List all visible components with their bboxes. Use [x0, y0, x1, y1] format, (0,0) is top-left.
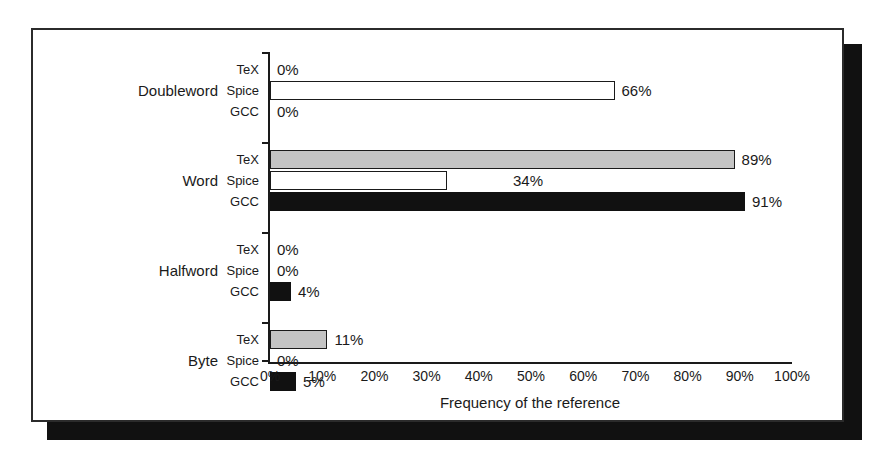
- series-label-spice: Spice: [226, 174, 259, 188]
- bar-word-tex: [270, 150, 735, 169]
- x-tick-label-60pct: 60%: [569, 368, 597, 384]
- bar-value-doubleword-gcc: 0%: [277, 102, 299, 121]
- y-axis-tick: [262, 142, 270, 144]
- y-axis-tick: [262, 322, 270, 324]
- category-label-byte: Byte: [48, 352, 218, 369]
- series-label-column: TeXSpiceGCCTeXSpiceGCCTeXSpiceGCCTeXSpic…: [208, 30, 263, 424]
- bar-value-halfword-tex: 0%: [277, 240, 299, 259]
- series-label-gcc: GCC: [230, 105, 259, 119]
- bar-value-byte-tex: 11%: [334, 330, 363, 349]
- x-tick-label-10pct: 10%: [308, 368, 336, 384]
- bar-value-doubleword-spice: 66%: [622, 81, 652, 100]
- x-tick-label-50pct: 50%: [517, 368, 545, 384]
- x-tick-label-0pct: 0%: [260, 368, 280, 384]
- category-label-word: Word: [48, 172, 218, 189]
- x-tick-label-80pct: 80%: [674, 368, 702, 384]
- series-label-gcc: GCC: [230, 375, 259, 389]
- series-label-tex: TeX: [237, 153, 259, 167]
- x-tick-label-70pct: 70%: [621, 368, 649, 384]
- bar-halfword-gcc: [270, 282, 291, 301]
- bar-value-halfword-spice: 0%: [277, 261, 299, 280]
- bar-word-spice: [270, 171, 447, 190]
- x-tick-label-40pct: 40%: [465, 368, 493, 384]
- bar-value-halfword-gcc: 4%: [298, 282, 320, 301]
- series-label-spice: Spice: [226, 84, 259, 98]
- bar-value-word-tex: 89%: [742, 150, 772, 169]
- bar-value-doubleword-tex: 0%: [277, 60, 299, 79]
- category-label-column: DoublewordWordHalfwordByte: [43, 30, 218, 424]
- x-axis-title: Frequency of the reference: [268, 394, 792, 411]
- bar-byte-tex: [270, 330, 327, 349]
- category-label-halfword: Halfword: [48, 262, 218, 279]
- series-label-tex: TeX: [237, 63, 259, 77]
- y-axis-tick: [262, 52, 270, 54]
- y-axis-tick: [262, 360, 270, 362]
- bar-value-word-gcc: 91%: [752, 192, 782, 211]
- bar-chart-plot-area: DoublewordWordHalfwordByte TeXSpiceGCCTe…: [33, 30, 846, 424]
- x-axis-line: [268, 362, 792, 364]
- bar-value-byte-spice: 0%: [277, 351, 299, 370]
- series-label-spice: Spice: [226, 354, 259, 368]
- bar-doubleword-spice: [270, 81, 615, 100]
- x-tick-label-30pct: 30%: [413, 368, 441, 384]
- x-tick-label-100pct: 100%: [774, 368, 810, 384]
- category-label-doubleword: Doubleword: [48, 82, 218, 99]
- series-label-tex: TeX: [237, 243, 259, 257]
- figure-frame: DoublewordWordHalfwordByte TeXSpiceGCCTe…: [31, 28, 844, 422]
- x-tick-label-20pct: 20%: [360, 368, 388, 384]
- series-label-gcc: GCC: [230, 285, 259, 299]
- x-tick-label-90pct: 90%: [726, 368, 754, 384]
- bar-word-gcc: [270, 192, 745, 211]
- bar-value-word-spice: 34%: [513, 171, 543, 190]
- y-axis-tick: [262, 232, 270, 234]
- series-label-spice: Spice: [226, 264, 259, 278]
- series-label-tex: TeX: [237, 333, 259, 347]
- series-label-gcc: GCC: [230, 195, 259, 209]
